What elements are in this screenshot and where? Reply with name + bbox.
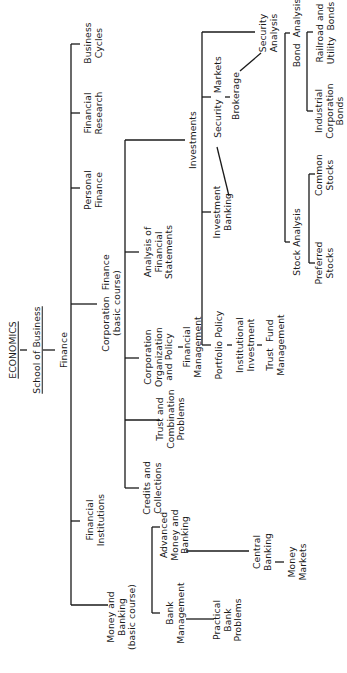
- node-business-cycles: Business Cycles: [83, 22, 104, 63]
- node-credits-and-collections: Credits and Collections: [142, 461, 163, 515]
- node-brokerage: Brokerage: [231, 72, 242, 120]
- node-investment-banking: Investment Banking: [212, 185, 233, 238]
- node-central-banking: Central Banking: [252, 533, 273, 571]
- node-institutional-investment: Institutional Investment: [235, 317, 256, 373]
- node-industrial-corporation-bonds: Industrial Corporation Bonds: [314, 83, 346, 138]
- node-finance: Finance: [59, 332, 70, 368]
- node-trust-fund-management: Trust Fund Management: [265, 314, 286, 376]
- node-corporation-organization: Corporation Organization and Policy: [143, 327, 175, 387]
- node-advanced-money-banking: Advanced Money and Banking: [159, 509, 191, 561]
- node-stock-analysis: Stock Analysis: [292, 208, 303, 276]
- node-security-markets: Security Markets: [213, 56, 224, 138]
- node-security-analysis: Security Analysis: [258, 14, 279, 53]
- node-bond-analysis: Bond Analysis: [292, 0, 303, 67]
- node-corporation-finance: Corporation Finance (basic course): [101, 254, 122, 351]
- node-bank-management: Bank Management: [165, 582, 186, 644]
- org-chart-canvas: ECONOMICS School of Business Finance Bus…: [0, 0, 347, 673]
- node-analysis-of-financial-statements: Analysis of Financial Statements: [143, 225, 175, 279]
- node-railroad-utility-bonds: Railroad and Utility Bonds: [315, 2, 336, 65]
- node-money-markets: Money Markets: [287, 543, 308, 580]
- node-personal-finance: Personal Finance: [83, 170, 104, 210]
- node-money-and-banking: Money and Banking (basic course): [106, 584, 138, 650]
- node-financial-management: Financial Management: [182, 316, 203, 378]
- node-financial-research: Financial Research: [83, 92, 104, 135]
- node-practical-bank-problems: Practical Bank Problems: [212, 598, 244, 641]
- node-economics: ECONOMICS: [8, 321, 19, 378]
- node-preferred-stocks: Preferred Stocks: [314, 241, 335, 284]
- node-trust-and-combination: Trust and Combination Problems: [155, 389, 187, 449]
- node-investments: Investments: [188, 111, 199, 169]
- node-portfolio-policy: Portfolio Policy: [214, 311, 225, 380]
- node-financial-institutions: Financial Institutions: [85, 494, 106, 547]
- node-common-stocks: Common Stocks: [314, 154, 335, 196]
- node-school-of-business: School of Business: [32, 306, 43, 394]
